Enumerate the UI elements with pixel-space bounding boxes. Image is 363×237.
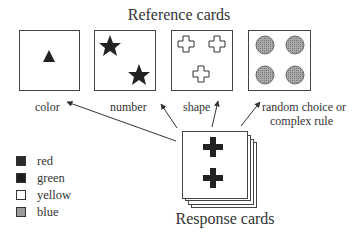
- arrow-to-number: [161, 104, 177, 128]
- label-random-line2: complex rule: [270, 115, 333, 128]
- response-cards-title: Response cards: [175, 210, 275, 228]
- label-color: color: [35, 101, 60, 114]
- arrow-to-random: [241, 102, 260, 126]
- yellow-swatch-icon: [16, 190, 26, 200]
- label-number: number: [110, 101, 147, 114]
- arrows: [67, 101, 260, 141]
- red-swatch-icon: [16, 156, 26, 166]
- hatched-circle-icon: [256, 36, 304, 84]
- cross-filled-icon: [203, 137, 223, 188]
- blue-swatch-icon: [16, 207, 26, 217]
- green-swatch-icon: [16, 173, 26, 183]
- legend-item-blue: blue: [16, 205, 59, 219]
- star-icon: [99, 35, 150, 85]
- legend-item-yellow: yellow: [16, 188, 71, 202]
- legend-item-green: green: [16, 171, 65, 185]
- label-shape: shape: [183, 101, 210, 114]
- arrow-to-shape: [212, 101, 218, 127]
- legend-item-red: red: [16, 154, 53, 168]
- triangle-icon: [43, 50, 55, 62]
- label-random-line1: random choice or: [262, 101, 346, 114]
- cross-outline-icon: [178, 36, 225, 82]
